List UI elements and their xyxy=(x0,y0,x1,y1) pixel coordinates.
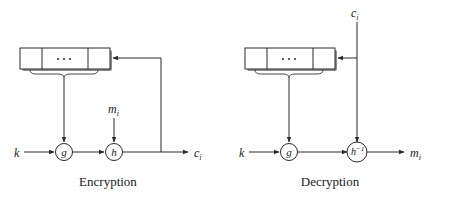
decryption-panel: k ci mi g h−1 Decryption xyxy=(239,6,421,189)
dec-k-label: k xyxy=(239,146,245,160)
enc-c-label: ci xyxy=(194,146,202,162)
figure-canvas: k mi ci g h Encryption xyxy=(0,0,453,201)
enc-h-label: h xyxy=(111,146,117,158)
diagram-svg: k mi ci g h Encryption xyxy=(0,0,453,201)
enc-feedback-path xyxy=(113,58,161,152)
enc-caption: Encryption xyxy=(79,174,137,189)
dec-m-label: mi xyxy=(410,146,421,162)
enc-m-label: mi xyxy=(108,102,119,118)
dec-c-label: ci xyxy=(351,6,359,22)
dec-register-box xyxy=(245,48,335,69)
encryption-panel: k mi ci g h Encryption xyxy=(14,48,202,189)
dec-g-label: g xyxy=(286,146,292,158)
dec-caption: Decryption xyxy=(301,174,360,189)
enc-k-label: k xyxy=(14,146,20,160)
enc-g-label: g xyxy=(61,146,67,158)
enc-register-brace xyxy=(30,70,98,78)
dec-register-brace xyxy=(255,70,323,78)
enc-register-box xyxy=(20,48,110,69)
